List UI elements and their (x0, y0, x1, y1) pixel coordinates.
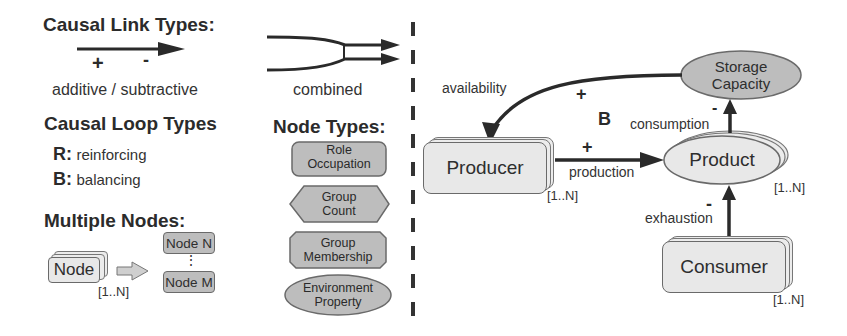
node-m-box: Node M (163, 271, 215, 293)
consumer-multiplicity: [1..N] (773, 292, 804, 307)
group-membership-line2: Membership (290, 250, 386, 264)
node-storage-capacity: Storage Capacity (681, 58, 801, 92)
subtractive-sign: - (143, 50, 149, 71)
combined-caption: combined (293, 81, 362, 99)
environment-property-line2: Property (288, 295, 388, 309)
product-multiplicity: [1..N] (774, 180, 805, 195)
additive-sign: + (92, 52, 104, 75)
role-occupation-line2: Occupation (292, 157, 386, 171)
availability-label: availability (442, 80, 507, 96)
loop-type-reinforcing: R: reinforcing (53, 144, 147, 165)
role-occupation-line1: Role (292, 143, 386, 157)
loop-type-balancing: B: balancing (53, 169, 141, 190)
causal-loop-types-title: Causal Loop Types (44, 113, 217, 135)
storage-capacity-line1: Storage (681, 58, 801, 75)
node-ellipsis: ⋮ (184, 252, 198, 268)
node-consumer: Consumer (662, 241, 786, 293)
environment-property-line1: Environment (288, 281, 388, 295)
group-membership-line1: Group (290, 236, 386, 250)
node-n-box: Node N (163, 232, 215, 254)
production-sign: + (582, 137, 593, 158)
multi-node-example: Node (48, 257, 100, 283)
node-type-role-occupation: Role Occupation (292, 143, 386, 171)
combined-arrow-icon (267, 37, 400, 70)
loop-label-reinforcing: reinforcing (76, 146, 146, 163)
loop-key-r: R: (53, 144, 72, 164)
node-producer: Producer (423, 142, 547, 194)
additive-subtractive-caption: additive / subtractive (52, 81, 198, 99)
group-count-line2: Count (292, 204, 386, 218)
loop-marker: B (598, 109, 611, 130)
node-type-group-count: Group Count (292, 190, 386, 218)
node-type-environment-property: Environment Property (288, 281, 388, 309)
node-product: Product (664, 149, 780, 171)
production-label: production (569, 164, 634, 180)
causal-link-types-title: Causal Link Types: (43, 14, 215, 36)
availability-sign: + (576, 84, 587, 105)
node-types-title: Node Types: (273, 116, 386, 138)
expand-arrow-icon (117, 262, 148, 280)
consumption-label: consumption (630, 116, 709, 132)
group-count-line1: Group (292, 190, 386, 204)
multi-node-multiplicity: [1..N] (98, 284, 129, 299)
node-type-group-membership: Group Membership (290, 236, 386, 264)
storage-capacity-line2: Capacity (681, 75, 801, 92)
exhaustion-label: exhaustion (645, 210, 713, 226)
producer-multiplicity: [1..N] (547, 188, 578, 203)
consumption-sign: - (712, 99, 717, 117)
loop-key-b: B: (53, 169, 72, 189)
loop-label-balancing: balancing (76, 171, 140, 188)
multiple-nodes-title: Multiple Nodes: (44, 210, 185, 232)
